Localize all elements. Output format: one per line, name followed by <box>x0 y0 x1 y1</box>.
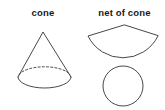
net-of-cone-shape <box>88 25 158 106</box>
shapes-drawing <box>0 0 165 110</box>
net-base-circle-icon <box>103 66 143 106</box>
cone-base-back-arc-icon <box>19 67 70 75</box>
net-sector-icon <box>88 25 158 58</box>
cone-base-front-arc-icon <box>18 77 71 88</box>
geometry-figure: cone net of cone <box>0 0 165 110</box>
cone-shape <box>18 32 71 88</box>
